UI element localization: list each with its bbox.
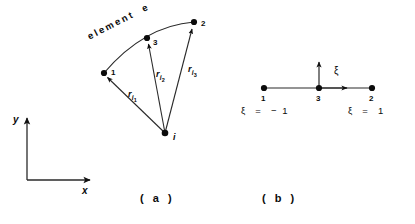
node-label-b-1: 1 <box>261 95 265 103</box>
vector-label-r-i-1: ri1 <box>118 81 136 108</box>
xi-axis-label: ξ <box>334 66 338 76</box>
vector-label-r-i-3: ri3 <box>178 56 196 83</box>
node-dot-2 <box>191 19 197 25</box>
y-axis-label: y <box>13 115 19 125</box>
node-dot-b-1 <box>261 85 267 91</box>
vector-label-r-i-3-subsub: 3 <box>194 72 197 78</box>
node-label-i: i <box>173 133 176 142</box>
vector-label-r-i-1-subsub: 1 <box>134 97 137 103</box>
vector-label-r-i-2: ri2 <box>146 61 164 88</box>
panel-a-graphics <box>27 19 197 180</box>
vector-label-r-i-2-base: r <box>156 69 160 79</box>
xi-value-left: ξ = − 1 <box>241 106 289 116</box>
panel-b-graphics <box>261 62 375 91</box>
node-label-1: 1 <box>111 69 115 77</box>
xi-value-right: ξ = 1 <box>348 106 385 116</box>
node-label-3: 3 <box>153 39 157 47</box>
figure-root: element e 1 2 3 i ri1 ri2 ri3 y x ( a ) … <box>0 0 415 224</box>
vector-label-r-i-3-base: r <box>188 64 192 74</box>
caption-b: ( b ) <box>262 193 297 204</box>
node-dot-b-2 <box>369 85 375 91</box>
vector-label-r-i-2-subsub: 2 <box>162 77 165 83</box>
vector-label-r-i-1-base: r <box>128 89 132 99</box>
node-dot-3 <box>144 35 150 41</box>
node-label-2: 2 <box>201 20 205 28</box>
node-dot-1 <box>101 70 107 76</box>
node-label-b-3: 3 <box>316 95 320 103</box>
node-dot-b-3 <box>316 85 322 91</box>
x-axis-label: x <box>82 186 88 196</box>
node-dot-i <box>162 130 169 137</box>
node-label-b-2: 2 <box>369 95 373 103</box>
caption-a: ( a ) <box>140 193 175 204</box>
